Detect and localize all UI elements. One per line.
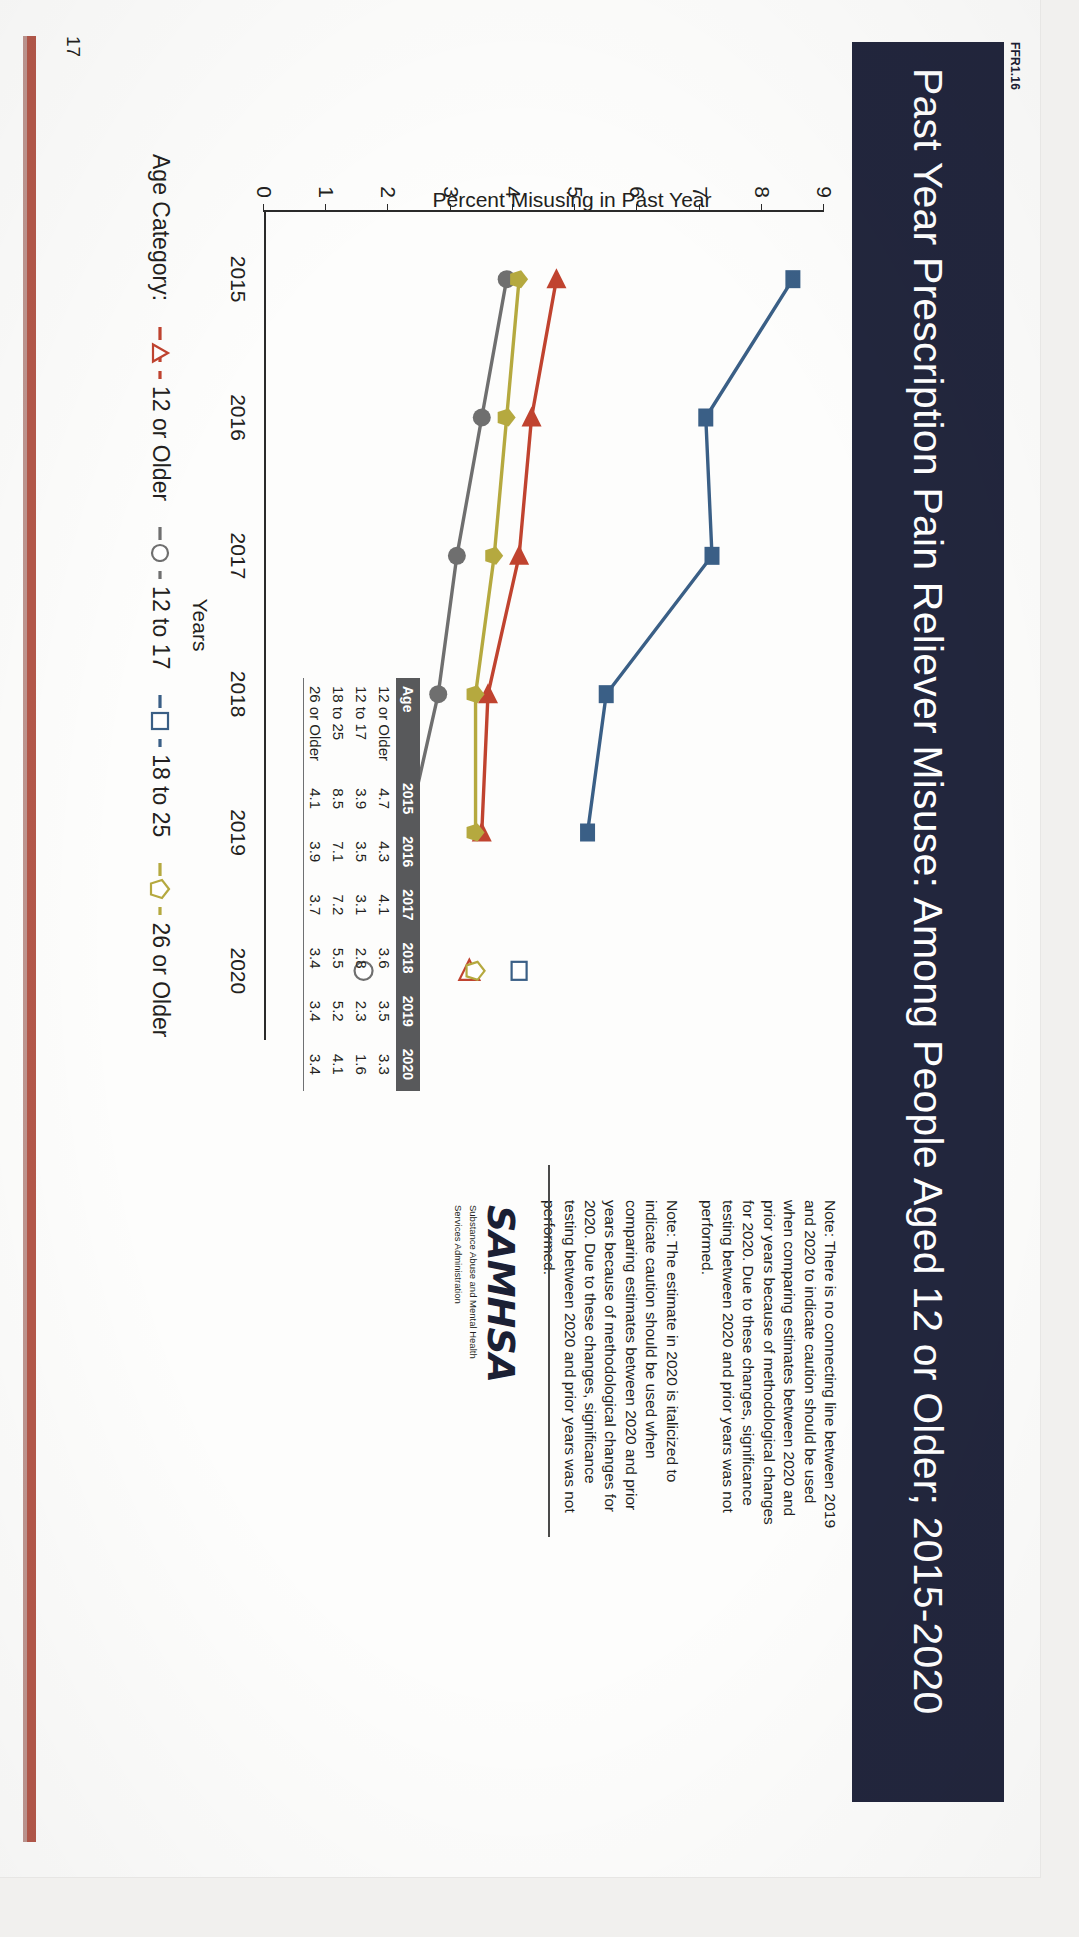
table-cell: 3.5: [373, 985, 396, 1038]
table-cell: 5.2: [327, 985, 350, 1038]
y-axis-tick: 9: [812, 186, 836, 198]
y-axis-tick: 4: [501, 186, 525, 198]
table-cell: 3.9: [304, 825, 328, 878]
triangle-data-marker: [522, 407, 542, 427]
table-row-label: 18 to 25: [327, 678, 350, 772]
report-page: FFR1.16 Past Year Prescription Pain Reli…: [0, 0, 1040, 1877]
scanned-page-viewport: FFR1.16 Past Year Prescription Pain Reli…: [0, 0, 1079, 1937]
notes-block: Note: There is no connecting line betwee…: [524, 1200, 840, 1530]
circle-open-data-marker: [473, 409, 491, 427]
series-line: [588, 279, 793, 832]
square-data-marker: [580, 824, 595, 842]
square-data-marker: [785, 270, 800, 288]
table-cell: 2.8: [350, 932, 373, 985]
figure-id-label: FFR1.16: [1008, 42, 1022, 90]
table-col-header: 2019: [396, 985, 420, 1038]
y-axis-tick: 5: [563, 186, 587, 198]
x-axis-tick: 2020: [226, 947, 250, 994]
table-cell: 4.1: [304, 772, 328, 825]
table-cell: 8.5: [327, 772, 350, 825]
y-axis-tick: 2: [376, 186, 400, 198]
legend-item-3[interactable]: 26 or Older: [147, 863, 174, 1037]
footer-accent-rule: [27, 36, 36, 1842]
pentagon-data-marker: [485, 547, 503, 565]
x-axis-tick: 2017: [226, 532, 250, 579]
series-0: [459, 268, 566, 980]
table-cell: 3.4: [304, 1038, 328, 1091]
legend-item-0[interactable]: 12 or Older: [147, 327, 174, 501]
table-cell: 1.6: [350, 1038, 373, 1091]
table-cell: 3.5: [350, 825, 373, 878]
table-col-header: Age: [396, 678, 420, 772]
samhsa-tagline-2: Services Administration: [452, 1205, 464, 1535]
triangle-data-marker: [509, 545, 529, 565]
x-axis-tick: 2019: [226, 809, 250, 856]
table-cell: 3.1: [350, 878, 373, 931]
table-cell: 2.3: [350, 985, 373, 1038]
samhsa-logo: SAMHSA Substance Abuse and Mental Health…: [452, 1205, 520, 1535]
table-col-header: 2020: [396, 1038, 420, 1091]
table-cell: 3.3: [373, 1038, 396, 1091]
table-row-label: 26 or Older: [304, 678, 328, 772]
y-axis-tick: 8: [750, 186, 774, 198]
legend-label-3: 26 or Older: [147, 922, 174, 1037]
pentagon-data-marker: [498, 409, 516, 427]
page-title: Past Year Prescription Pain Reliever Mis…: [904, 42, 952, 1715]
page-number: 17: [62, 36, 84, 57]
y-axis-tick: 3: [439, 186, 463, 198]
x-axis-tick: 2015: [226, 256, 250, 303]
samhsa-wordmark: SAMHSA: [482, 1205, 520, 1535]
legend-item-1[interactable]: 12 to 17: [147, 527, 174, 669]
table-cell: 4.3: [373, 825, 396, 878]
square-data-marker: [512, 962, 527, 980]
table-row: 18 to 258.57.17.25.55.24.1: [327, 678, 350, 1091]
legend-label-2: 18 to 25: [147, 754, 174, 837]
table-cell: 7.1: [327, 825, 350, 878]
legend-item-2[interactable]: 18 to 25: [147, 695, 174, 837]
table-row: 12 or Older4.74.34.13.63.53.3: [373, 678, 396, 1091]
data-table: Age201520162017201820192020 12 or Older4…: [303, 678, 420, 1091]
title-bar: Past Year Prescription Pain Reliever Mis…: [852, 42, 1004, 1802]
series-3: [467, 270, 529, 980]
square-data-marker: [705, 547, 720, 565]
x-axis-title: Years: [188, 599, 212, 652]
circle-open-data-marker: [448, 547, 466, 565]
square-data-marker: [599, 685, 614, 703]
table-body: 12 or Older4.74.34.13.63.53.312 to 173.9…: [304, 678, 397, 1091]
table-cell: 4.7: [373, 772, 396, 825]
triangle-marker-icon: [149, 327, 173, 379]
y-axis-tick: 0: [252, 186, 276, 198]
circle-marker-icon: [149, 527, 173, 579]
table-cell: 7.2: [327, 878, 350, 931]
footer-accent-rule-shadow: [23, 36, 27, 1842]
table-header-row: Age201520162017201820192020: [396, 678, 420, 1091]
table-row-label: 12 to 17: [350, 678, 373, 772]
triangle-data-marker: [546, 268, 566, 288]
note-1: Note: There is no connecting line betwee…: [697, 1200, 840, 1530]
circle-open-data-marker: [429, 685, 447, 703]
legend-label-1: 12 to 17: [147, 586, 174, 669]
table-cell: 3.4: [304, 932, 328, 985]
chart-legend: Age Category: 12 or Older 12 to 17: [147, 154, 174, 1037]
x-axis-tick: 2016: [226, 394, 250, 441]
square-marker-icon: [149, 695, 173, 747]
y-axis-tick: 7: [688, 186, 712, 198]
page-body: Percent Misusing in Past Year Years 0123…: [60, 0, 850, 1877]
table-cell: 4.1: [327, 1038, 350, 1091]
table-row-label: 12 or Older: [373, 678, 396, 772]
logo-divider: [549, 1165, 551, 1537]
table-row: 12 to 173.93.53.12.82.31.6: [350, 678, 373, 1091]
table-col-header: 2017: [396, 878, 420, 931]
table-col-header: 2018: [396, 932, 420, 985]
table-row: 26 or Older4.13.93.73.43.43.4: [304, 678, 328, 1091]
pentagon-marker-icon: [149, 863, 173, 915]
table-cell: 4.1: [373, 878, 396, 931]
square-data-marker: [698, 409, 713, 427]
pentagon-data-marker: [467, 962, 485, 980]
y-axis-tick: 6: [625, 186, 649, 198]
table-cell: 3.9: [350, 772, 373, 825]
pentagon-data-marker: [510, 270, 528, 288]
table-cell: 5.5: [327, 932, 350, 985]
note-2: Note: The estimate in 2020 is italicized…: [539, 1200, 682, 1530]
x-axis-tick: 2018: [226, 671, 250, 718]
